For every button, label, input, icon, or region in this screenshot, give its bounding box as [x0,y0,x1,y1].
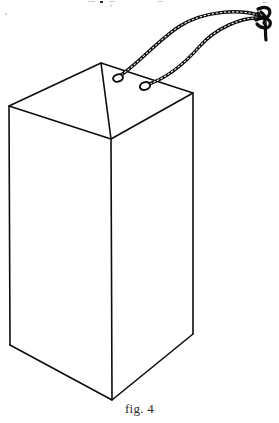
cord-lower [146,18,259,85]
cord-knot [256,7,270,40]
figure-illustration [0,0,279,423]
carton-edge-vertical-left [9,106,10,345]
carton-body [9,63,193,400]
figure-container: fig. 4 [0,0,279,423]
knot-tail [265,22,266,40]
carton-face-right [111,93,193,400]
cord-lower-braid [146,18,259,85]
carton-face-left [9,106,112,400]
cord-lower-core [146,18,259,85]
figure-caption: fig. 4 [0,401,279,417]
carton-edge-vertical-front [111,139,112,400]
